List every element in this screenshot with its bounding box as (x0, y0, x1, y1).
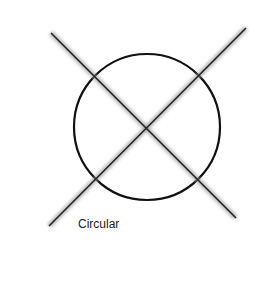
diagram-canvas (0, 0, 258, 284)
diagonal-line-1 (51, 33, 236, 218)
crossing-lines (49, 28, 246, 226)
diagram-label: Circular (78, 217, 119, 231)
